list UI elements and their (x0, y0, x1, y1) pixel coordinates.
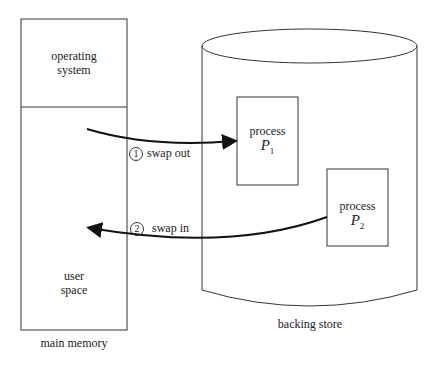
cylinder-bottom (202, 290, 417, 306)
main-memory-caption: main memory (21, 336, 127, 350)
process-p2-label: process P2 (327, 199, 388, 233)
step-number-1: 1 (129, 147, 143, 161)
user-space-label: user space (21, 269, 127, 297)
swap-out-arrow (87, 129, 234, 143)
os-label: operating system (21, 49, 127, 77)
swap-in-arrow (90, 217, 327, 238)
step-number-2: 2 (130, 222, 144, 236)
backing-store-caption: backing store (250, 317, 370, 331)
cylinder-top (202, 29, 417, 63)
process-p1-label: process P1 (237, 124, 298, 158)
step-swap-out: 1swap out (129, 146, 190, 161)
step-swap-in: 2swap in (130, 221, 189, 236)
